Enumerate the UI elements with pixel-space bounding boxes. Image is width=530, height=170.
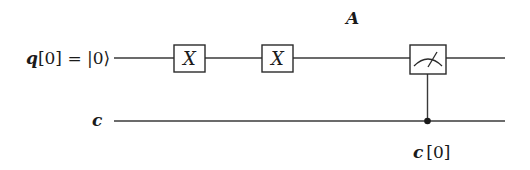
classical-target-dot <box>424 118 431 125</box>
qubit-initial-state: |0⟩ <box>87 48 110 68</box>
quantum-circuit-diagram: A q[0] = |0⟩ c X X c[0] <box>0 0 530 170</box>
qubit-label: q[0] = |0⟩ <box>26 48 110 68</box>
classical-register-label: c <box>92 110 103 130</box>
target-name: c <box>413 142 424 162</box>
x-gate-1: X <box>174 45 205 72</box>
x-gate-1-symbol: X <box>181 48 197 69</box>
x-gate-2-symbol: X <box>269 48 285 69</box>
x-gate-2: X <box>262 45 293 72</box>
qubit-equals: = <box>62 48 87 68</box>
annotation-label: A <box>344 8 359 28</box>
target-index: [0] <box>426 142 450 162</box>
qubit-index: [0] <box>38 48 62 68</box>
measurement-target-label: c[0] <box>413 142 450 162</box>
measurement-gate <box>410 45 446 74</box>
qubit-name: q <box>26 48 38 68</box>
